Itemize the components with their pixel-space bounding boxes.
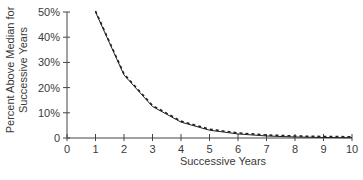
y-axis-label-line1: Percent Above Median for: [4, 6, 16, 133]
axes: [67, 12, 352, 138]
x-axis-label: Successive Years: [180, 155, 267, 167]
series-line-expected: [96, 11, 353, 137]
line-chart: 010%20%30%40%50% 012345678910 Percent Ab…: [0, 0, 363, 180]
y-axis-label-line2: Successive Years: [17, 26, 29, 113]
y-tick-label: 30%: [38, 56, 60, 68]
x-tick-label: 3: [149, 143, 155, 155]
series-line-actual: [96, 12, 353, 138]
y-tick-label: 10%: [38, 107, 60, 119]
x-tick-label: 5: [206, 143, 212, 155]
x-tick-label: 10: [346, 143, 358, 155]
y-tick-label: 0: [54, 132, 60, 144]
x-tick-label: 0: [64, 143, 70, 155]
x-tick-label: 4: [178, 143, 184, 155]
chart-canvas: 010%20%30%40%50% 012345678910 Percent Ab…: [0, 0, 363, 180]
y-tick-label: 50%: [38, 6, 60, 18]
y-axis-ticks: 010%20%30%40%50%: [38, 6, 70, 144]
x-tick-label: 7: [263, 143, 269, 155]
data-series: [96, 11, 353, 138]
x-tick-label: 9: [320, 143, 326, 155]
x-tick-label: 2: [121, 143, 127, 155]
y-tick-label: 40%: [38, 31, 60, 43]
x-tick-label: 8: [292, 143, 298, 155]
y-tick-label: 20%: [38, 82, 60, 94]
x-tick-label: 1: [92, 143, 98, 155]
x-tick-label: 6: [235, 143, 241, 155]
